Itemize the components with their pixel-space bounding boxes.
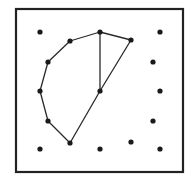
- grid-dot: [37, 29, 42, 34]
- grid-dot: [157, 88, 162, 93]
- grid-dot: [150, 118, 155, 123]
- polygon-outline: [40, 32, 131, 143]
- grid-dot: [37, 88, 42, 93]
- grid-dot: [157, 29, 162, 34]
- grid-dot: [157, 146, 162, 151]
- grid-dot: [97, 146, 102, 151]
- grid-dot: [150, 59, 155, 64]
- grid-dot: [67, 140, 72, 145]
- grid-dot: [97, 88, 102, 93]
- polygon-layer: [40, 32, 131, 143]
- grid-dot: [128, 139, 133, 144]
- grid-dot: [45, 118, 50, 123]
- grid-dot: [128, 37, 133, 42]
- grid-dot: [67, 38, 72, 43]
- grid-dot: [45, 59, 50, 64]
- geoboard-figure: [0, 0, 192, 180]
- grid-dot: [37, 146, 42, 151]
- grid-dot: [97, 29, 102, 34]
